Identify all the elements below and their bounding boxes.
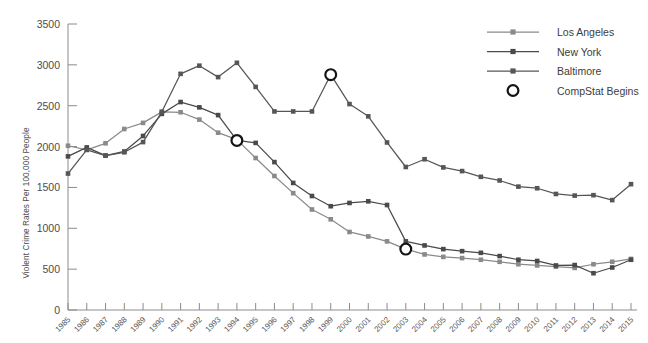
x-tick-label: 1999 — [316, 315, 335, 334]
data-point-marker — [591, 271, 596, 276]
data-point-marker — [272, 109, 277, 114]
chart-legend: Los AngelesNew YorkBaltimoreCompStat Beg… — [487, 26, 639, 97]
x-tick-label: 2005 — [429, 315, 448, 334]
x-tick-label: 2008 — [485, 315, 504, 334]
data-point-marker — [272, 160, 277, 165]
legend-square-marker — [510, 68, 515, 73]
y-axis-label: Violent Crime Rates Per 100,000 People — [22, 127, 31, 278]
y-tick-label: 3000 — [37, 59, 61, 71]
data-point-marker — [479, 175, 484, 180]
legend-item-compstat-begins[interactable]: CompStat Begins — [508, 85, 639, 97]
legend-item-baltimore[interactable]: Baltimore — [487, 65, 602, 77]
legend-item-new-york[interactable]: New York — [487, 46, 602, 58]
legend-label: Baltimore — [557, 65, 602, 77]
data-point-marker — [235, 61, 240, 66]
data-point-marker — [253, 141, 258, 146]
y-tick-label: 3500 — [37, 18, 61, 30]
data-point-marker — [610, 265, 615, 270]
data-point-marker — [535, 259, 540, 264]
x-tick-label: 2015 — [616, 315, 635, 334]
data-point-marker — [554, 192, 559, 197]
x-tick-label: 2009 — [504, 315, 523, 334]
data-point-marker — [310, 194, 315, 199]
x-tick-label: 1998 — [297, 315, 316, 334]
data-point-marker — [535, 263, 540, 268]
x-tick-label: 2014 — [598, 315, 617, 334]
data-point-marker — [422, 243, 427, 248]
data-point-marker — [591, 193, 596, 198]
series-line — [68, 112, 631, 268]
data-point-marker — [103, 153, 108, 158]
x-tick-label: 1992 — [185, 315, 204, 334]
x-tick-label: 1985 — [53, 315, 72, 334]
data-point-marker — [497, 254, 502, 259]
x-tick-label: 1987 — [91, 315, 110, 334]
y-tick-label: 2000 — [37, 141, 61, 153]
data-point-marker — [572, 193, 577, 198]
data-point-marker — [591, 262, 596, 267]
compstat-begins-marker — [325, 69, 336, 80]
data-point-marker — [516, 257, 521, 262]
data-point-marker — [516, 262, 521, 267]
data-point-marker — [347, 102, 352, 107]
data-series-group — [66, 61, 634, 276]
data-point-marker — [479, 257, 484, 262]
data-point-marker — [441, 247, 446, 252]
data-point-marker — [460, 256, 465, 261]
data-point-marker — [141, 134, 146, 139]
x-tick-label: 2002 — [372, 315, 391, 334]
legend-square-marker — [510, 29, 515, 34]
data-point-marker — [497, 178, 502, 183]
data-point-marker — [122, 150, 127, 155]
data-point-marker — [366, 199, 371, 204]
x-tick-label: 2010 — [523, 315, 542, 334]
x-tick-label: 2004 — [410, 315, 429, 334]
data-point-marker — [422, 252, 427, 257]
data-point-marker — [441, 165, 446, 170]
legend-item-los-angeles[interactable]: Los Angeles — [487, 26, 614, 38]
line-chart: Violent Crime Rates Per 100,000 People 0… — [0, 0, 648, 343]
data-point-marker — [66, 154, 71, 159]
legend-label: CompStat Begins — [557, 85, 639, 97]
compstat-begins-marker — [232, 135, 243, 146]
y-axis-ticks: 0500100015002000250030003500 — [37, 18, 77, 316]
data-point-marker — [66, 143, 71, 148]
compstat-begins-marker — [400, 244, 411, 255]
x-axis-ticks: 1985198619871988198919901991199219931994… — [53, 303, 635, 334]
x-tick-label: 2013 — [579, 315, 598, 334]
data-point-marker — [103, 141, 108, 146]
data-point-marker — [216, 130, 221, 135]
data-point-marker — [347, 201, 352, 206]
data-point-marker — [291, 181, 296, 186]
data-point-marker — [178, 72, 183, 77]
legend-label: New York — [557, 46, 602, 58]
data-point-marker — [291, 191, 296, 196]
data-point-marker — [460, 169, 465, 174]
data-point-marker — [422, 157, 427, 162]
y-tick-label: 1500 — [37, 181, 61, 193]
x-tick-label: 1986 — [72, 315, 91, 334]
y-tick-label: 2500 — [37, 100, 61, 112]
y-tick-label: 500 — [42, 263, 60, 275]
data-point-marker — [516, 184, 521, 189]
x-tick-label: 2007 — [466, 315, 485, 334]
x-tick-label: 2011 — [542, 315, 561, 334]
data-point-marker — [366, 234, 371, 239]
compstat-annotations — [232, 69, 412, 254]
data-point-marker — [535, 186, 540, 191]
data-point-marker — [253, 156, 258, 161]
data-point-marker — [404, 165, 409, 170]
data-point-marker — [366, 114, 371, 119]
x-tick-label: 1997 — [279, 315, 298, 334]
data-point-marker — [216, 113, 221, 118]
data-point-marker — [385, 239, 390, 244]
data-point-marker — [328, 204, 333, 209]
data-point-marker — [122, 127, 127, 132]
data-point-marker — [629, 182, 634, 187]
x-tick-label: 1994 — [222, 315, 241, 334]
data-point-marker — [479, 251, 484, 256]
x-tick-label: 1995 — [241, 315, 260, 334]
data-point-marker — [610, 259, 615, 264]
data-point-marker — [310, 109, 315, 114]
chart-container: Violent Crime Rates Per 100,000 People 0… — [0, 0, 648, 343]
